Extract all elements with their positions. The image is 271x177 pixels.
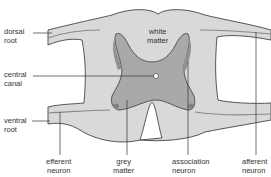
left-ventral-horn-cell	[113, 104, 119, 109]
label-association-neuron: association neuron	[172, 157, 210, 175]
label-grey-matter: grey matter	[113, 157, 134, 175]
label-dorsal-root: dorsal root	[4, 27, 24, 45]
diagram-drawing	[0, 0, 271, 177]
label-afferent-neuron: afferent neuron	[242, 157, 267, 175]
spinal-cord-diagram: dorsal root white matter central canal v…	[0, 0, 271, 177]
label-efferent-neuron: efferent neuron	[46, 157, 71, 175]
label-white-matter: white matter	[147, 27, 168, 45]
central-canal-dot	[154, 74, 159, 79]
right-ventral-horn-cell	[188, 104, 194, 109]
label-ventral-root: ventral root	[4, 116, 27, 134]
label-central-canal: central canal	[4, 70, 27, 88]
